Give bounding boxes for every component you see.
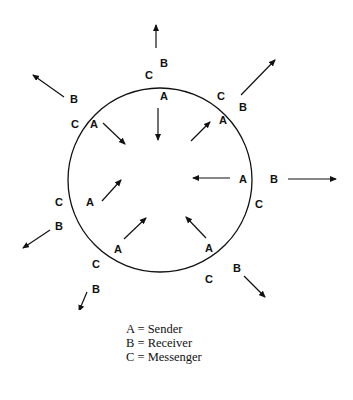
legend-item-messenger: C = Messenger — [126, 350, 202, 364]
group-bottom-right: A C B — [186, 217, 265, 297]
label-a-top-right: A — [219, 114, 227, 126]
arrow-out-left-icon — [23, 230, 50, 248]
label-a-right: A — [239, 173, 247, 185]
label-c-bottom-right: C — [205, 273, 213, 285]
label-a-bottom-right: A — [205, 242, 213, 254]
label-b-bottom-left: B — [92, 283, 100, 295]
group-left: C A B — [23, 180, 121, 248]
legend: A = Sender B = Receiver C = Messenger — [126, 322, 202, 364]
cropped-caption-line — [0, 392, 353, 400]
arrow-out-top-left-icon — [33, 75, 64, 97]
arrow-in-bottom-left-icon — [124, 218, 146, 239]
group-top-right: C B A — [191, 60, 275, 141]
label-a-left: A — [86, 196, 94, 208]
label-a-top-left: A — [90, 118, 98, 130]
arrow-out-top-right-icon — [241, 60, 275, 95]
label-a-top: A — [160, 90, 168, 102]
label-b-top-right: B — [239, 101, 247, 113]
label-b-bottom-right: B — [233, 262, 241, 274]
group-top: B C A — [145, 25, 168, 140]
arrow-out-bottom-right-icon — [244, 276, 265, 297]
group-top-left: B C A — [33, 75, 125, 144]
label-b-right: B — [270, 173, 278, 185]
label-b-top-left: B — [70, 93, 78, 105]
circle-diagram: B C A C B A A B C A C B A C B C A — [0, 0, 353, 310]
label-c-bottom-left: C — [92, 258, 100, 270]
arrow-in-top-right-icon — [191, 122, 210, 141]
legend-item-receiver: B = Receiver — [126, 336, 202, 350]
arrow-out-bottom-left-icon — [79, 292, 87, 310]
label-b-top: B — [160, 57, 168, 69]
group-right: A B C — [193, 173, 336, 210]
arrow-in-bottom-right-icon — [186, 217, 206, 238]
label-a-bottom-left: A — [114, 243, 122, 255]
arrow-in-top-left-icon — [103, 123, 125, 144]
label-c-top-left: C — [71, 118, 79, 130]
label-c-left: C — [55, 196, 63, 208]
group-bottom-left: A C B — [79, 218, 146, 310]
legend-item-sender: A = Sender — [126, 322, 202, 336]
label-c-right: C — [255, 198, 263, 210]
label-c-top-right: C — [217, 90, 225, 102]
arrow-in-left-icon — [102, 180, 121, 201]
label-c-top: C — [145, 69, 153, 81]
label-b-left: B — [55, 220, 63, 232]
